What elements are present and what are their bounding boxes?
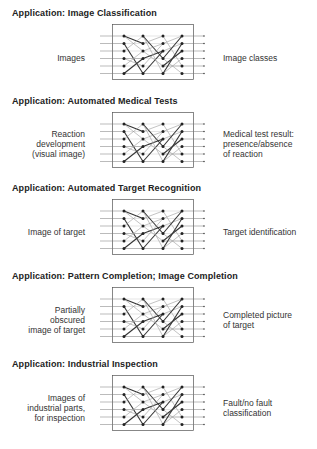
section-automated-medical-tests: Application: Automated Medical Tests Rea… xyxy=(0,96,317,176)
section-industrial-inspection: Application: Industrial Inspection Image… xyxy=(0,359,317,439)
section-image-classification: Application: Image Classification Images… xyxy=(0,8,317,88)
section-title: Application: Pattern Completion; Image C… xyxy=(12,271,238,281)
output-label: Fault/no fault classification xyxy=(223,398,272,418)
section-title: Application: Automated Medical Tests xyxy=(12,96,178,106)
section-title: Application: Image Classification xyxy=(12,8,157,18)
input-label: Reaction development (visual image) xyxy=(32,129,85,159)
neural-network-diagram xyxy=(96,199,211,261)
section-pattern-completion: Application: Pattern Completion; Image C… xyxy=(0,271,317,351)
section-title: Application: Industrial Inspection xyxy=(12,359,158,369)
section-title: Application: Automated Target Recognitio… xyxy=(12,183,201,193)
neural-network-diagram xyxy=(96,24,211,86)
neural-network-diagram xyxy=(96,112,211,174)
neural-network-diagram xyxy=(96,375,211,437)
output-label: Completed picture of target xyxy=(223,310,292,330)
output-label: Target identification xyxy=(223,227,296,237)
input-label: Images of industrial parts, for inspecti… xyxy=(27,393,85,423)
input-label: Images xyxy=(57,53,85,63)
input-label: Partially obscured image of target xyxy=(28,305,85,335)
output-label: Medical test result: presence/absence of… xyxy=(223,129,294,159)
input-label: Image of target xyxy=(28,227,85,237)
output-label: Image classes xyxy=(223,53,277,63)
section-automated-target-recognition: Application: Automated Target Recognitio… xyxy=(0,183,317,263)
neural-network-diagram xyxy=(96,287,211,349)
